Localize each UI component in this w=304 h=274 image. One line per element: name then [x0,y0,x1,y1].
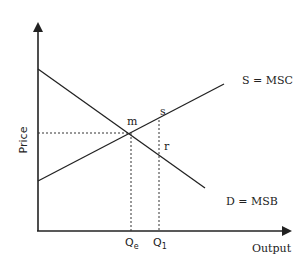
demand-label: D = MSB [226,195,278,208]
demand-curve [38,69,205,188]
point-s-label: s [160,105,166,118]
x-axis-label: Output [252,242,292,255]
supply-label: S = MSC [242,74,293,87]
market-diagram: Price Output S = MSC D = MSB m s r Qe Q1 [0,0,304,274]
q1-label: Q1 [153,236,167,251]
y-axis-label: Price [17,126,30,153]
qe-label: Qe [125,236,139,251]
point-r-label: r [164,140,170,153]
point-m-label: m [127,115,138,128]
